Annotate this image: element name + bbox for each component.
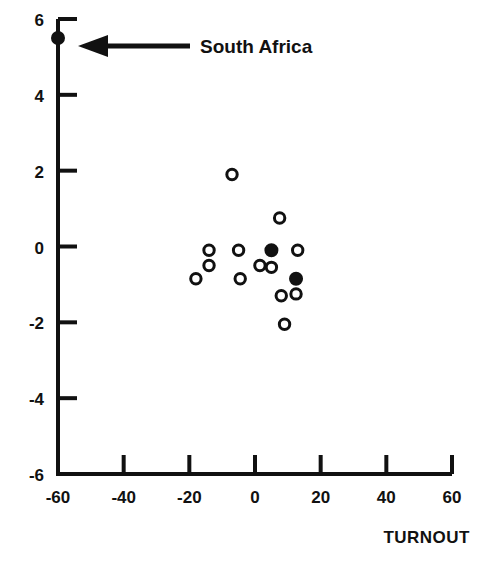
data-point-open [191, 274, 201, 284]
x-tick-label: -20 [177, 488, 202, 507]
scatter-plot-figure: 6420-2-4-6 -60-40-200204060 South Africa… [0, 0, 485, 567]
data-point-filled [265, 244, 277, 256]
data-point-open [266, 262, 276, 272]
data-point-open [227, 169, 237, 179]
x-axis-title: TURNOUT [383, 528, 470, 547]
x-tick-label: -40 [111, 488, 136, 507]
y-tick-label: -6 [29, 466, 44, 485]
data-point-open [291, 289, 301, 299]
south-africa-label: South Africa [200, 36, 313, 57]
y-tick-label: 0 [35, 239, 44, 258]
y-tick-label: -4 [29, 390, 45, 409]
data-point-open [235, 274, 245, 284]
data-point-open [279, 319, 289, 329]
y-tick-label: 2 [35, 163, 44, 182]
x-tick-label: 20 [311, 488, 330, 507]
data-point-open [233, 245, 243, 255]
data-point-filled [52, 32, 64, 44]
data-point-open [204, 260, 214, 270]
y-tick-label: -2 [29, 314, 44, 333]
data-point-open [276, 291, 286, 301]
data-point-open [255, 260, 265, 270]
data-point-filled [290, 273, 302, 285]
data-point-open [274, 213, 284, 223]
data-point-open [204, 245, 214, 255]
data-point-open [292, 245, 302, 255]
y-tick-label: 6 [35, 11, 44, 30]
x-tick-label: -60 [46, 488, 71, 507]
y-tick-label: 4 [35, 87, 45, 106]
x-tick-label: 0 [250, 488, 259, 507]
x-tick-label: 60 [443, 488, 462, 507]
x-tick-label: 40 [377, 488, 396, 507]
